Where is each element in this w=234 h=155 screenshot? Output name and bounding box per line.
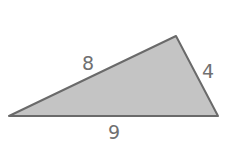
side-label-bottom: 9 [108, 121, 120, 143]
side-label-right: 4 [202, 60, 214, 82]
side-label-left: 8 [82, 52, 94, 74]
triangle-shape [9, 36, 218, 116]
triangle-diagram: 8 4 9 [0, 0, 234, 155]
